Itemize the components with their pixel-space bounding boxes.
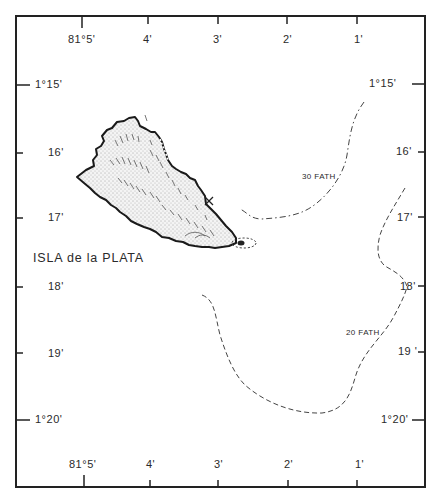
contour-30-fathom-east [378, 188, 408, 290]
top-lon-label-3: 2' [283, 33, 292, 45]
contour-30-fathom [240, 102, 364, 219]
left-lat-label-1: 16' [48, 146, 64, 158]
contour-label-20-fathom: 20 FATH [346, 328, 380, 337]
bottom-lon-label-3: 2' [284, 458, 293, 470]
right-lat-label-1: 16' [396, 145, 412, 157]
top-lon-label-0: 81°5' [68, 33, 95, 45]
left-lat-label-4: 19' [48, 347, 64, 359]
left-tick-marks [16, 85, 30, 420]
left-lat-label-0: 1°15' [35, 78, 62, 90]
right-lat-label-4: 19 ' [398, 345, 417, 357]
right-tick-marks [412, 84, 425, 420]
contour-label-30-fathom: 30 FATH [302, 172, 336, 181]
right-lat-label-2: 17' [397, 211, 413, 223]
island-isla-de-la-plata [77, 117, 236, 248]
top-lon-label-1: 4' [143, 33, 152, 45]
bottom-lon-label-4: 1' [355, 458, 364, 470]
top-lon-label-2: 3' [213, 33, 222, 45]
bottom-lon-label-2: 3' [214, 458, 223, 470]
left-lat-label-5: 1°20' [35, 413, 62, 425]
right-lat-label-0: 1°15' [369, 77, 396, 89]
left-lat-label-3: 18' [48, 280, 64, 292]
contour-20-fathom [202, 287, 407, 413]
islet [238, 241, 245, 246]
bottom-lon-label-1: 4' [146, 458, 155, 470]
top-lon-label-4: 1' [354, 33, 363, 45]
right-lat-label-5: 1°20' [381, 413, 408, 425]
top-tick-marks [82, 16, 357, 28]
bottom-lon-label-0: 81°5' [69, 458, 96, 470]
place-name-label: ISLA de la PLATA [33, 251, 144, 265]
right-lat-label-3: 18' [400, 280, 416, 292]
bottom-tick-marks [84, 475, 357, 487]
left-lat-label-2: 17' [48, 211, 64, 223]
